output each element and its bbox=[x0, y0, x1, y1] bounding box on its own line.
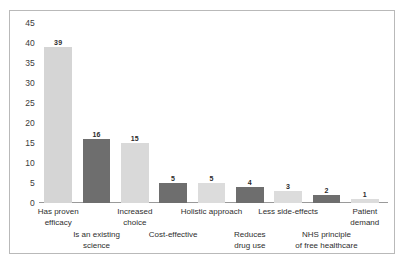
bar-slot: 5 bbox=[198, 23, 226, 203]
y-axis-tick-20: 20 bbox=[25, 118, 35, 128]
bar bbox=[83, 139, 111, 203]
bar-value-label: 39 bbox=[44, 39, 72, 46]
bar-value-label: 2 bbox=[313, 187, 341, 194]
y-axis-tick-10: 10 bbox=[25, 158, 35, 168]
y-axis-tick-30: 30 bbox=[25, 78, 35, 88]
y-axis-tick-45: 45 bbox=[25, 18, 35, 28]
bar-slot: 4 bbox=[236, 23, 264, 203]
chart-figure: 454035302520151050 391615554321 Has prov… bbox=[9, 10, 395, 254]
bar bbox=[159, 183, 187, 203]
bar-slot: 15 bbox=[121, 23, 149, 203]
bar-value-label: 1 bbox=[351, 191, 379, 198]
bar bbox=[236, 187, 264, 203]
bar-value-label: 3 bbox=[274, 183, 302, 190]
bar-slot: 39 bbox=[44, 23, 72, 203]
x-axis-label-5: Reduces drug use bbox=[212, 230, 287, 251]
x-axis-label-7: NHS principle of free healthcare bbox=[289, 230, 364, 251]
bar bbox=[44, 47, 72, 203]
y-axis-tick-35: 35 bbox=[25, 58, 35, 68]
bar-value-label: 5 bbox=[198, 175, 226, 182]
x-axis-label-1: Is an existing science bbox=[59, 230, 134, 251]
y-axis-tick-5: 5 bbox=[30, 178, 35, 188]
bar-value-label: 5 bbox=[159, 175, 187, 182]
x-axis-label-3: Cost-effective bbox=[136, 230, 211, 241]
plot-area: 454035302520151050 391615554321 bbox=[39, 23, 384, 203]
bar-slot: 5 bbox=[159, 23, 187, 203]
bar bbox=[274, 191, 302, 203]
x-axis-label-6: Less side-effects bbox=[251, 207, 326, 218]
bar-slot: 2 bbox=[313, 23, 341, 203]
bar bbox=[198, 183, 226, 203]
x-axis-label-8: Patient demand bbox=[327, 207, 402, 228]
x-axis-label-0: Has proven efficacy bbox=[21, 207, 96, 228]
bar-value-label: 4 bbox=[236, 179, 264, 186]
bar-series: 391615554321 bbox=[39, 23, 384, 203]
bar bbox=[313, 195, 341, 203]
x-axis-category-labels: Has proven efficacyIs an existing scienc… bbox=[39, 205, 384, 253]
bar-slot: 16 bbox=[83, 23, 111, 203]
y-axis-tick-15: 15 bbox=[25, 138, 35, 148]
y-axis-tick-40: 40 bbox=[25, 38, 35, 48]
bar-slot: 3 bbox=[274, 23, 302, 203]
bar-slot: 1 bbox=[351, 23, 379, 203]
bar bbox=[351, 199, 379, 203]
x-axis-label-4: Holistic approach bbox=[174, 207, 249, 218]
bar-value-label: 16 bbox=[83, 131, 111, 138]
bar bbox=[121, 143, 149, 203]
y-axis-tick-25: 25 bbox=[25, 98, 35, 108]
bar-value-label: 15 bbox=[121, 135, 149, 142]
x-axis-label-2: Increased choice bbox=[97, 207, 172, 228]
